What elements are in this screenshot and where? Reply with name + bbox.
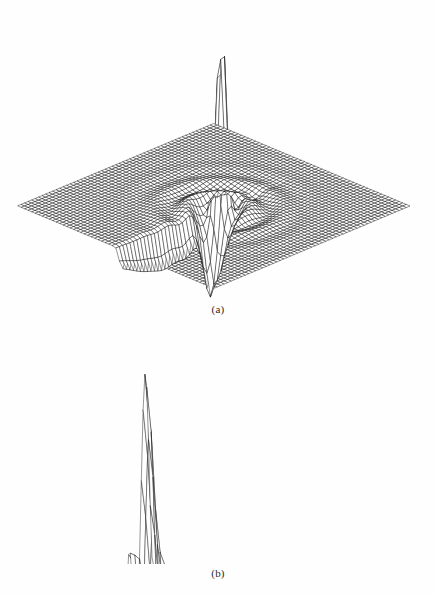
surface-plot-b (0, 326, 436, 564)
figure-panel-b: (b) (0, 326, 436, 588)
figure-panel-a: (a) (0, 0, 436, 320)
figure-page: (a) (b) (0, 0, 436, 596)
surface-plot-a (0, 0, 436, 300)
figure-caption-b: (b) (0, 567, 436, 579)
surface-plot-a-canvas (0, 0, 436, 300)
figure-caption-a: (a) (0, 303, 436, 315)
surface-plot-b-canvas (0, 326, 436, 564)
